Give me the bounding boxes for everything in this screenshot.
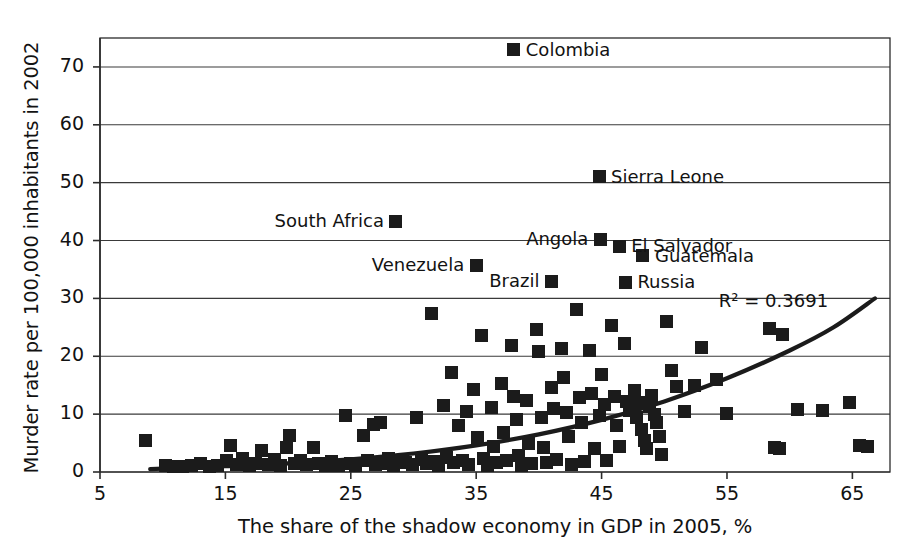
scatter-chart-figure: Murder rate per 100,000 inhabitants in 2… [0,0,920,553]
data-point-marker [545,381,558,394]
data-point-marker [460,405,473,418]
data-point-marker [645,389,658,402]
data-point-marker [255,444,268,457]
y-tick-label-40: 40 [44,228,84,250]
data-point-marker [452,419,465,432]
plot-area [0,0,920,553]
x-tick-label-55: 55 [702,482,752,504]
data-point-marker [532,345,545,358]
data-point-marker [535,411,548,424]
point-label-south-africa: South Africa [275,210,384,231]
data-point-marker [570,303,583,316]
data-point-marker [560,406,573,419]
data-point-marker [520,394,533,407]
data-point-marker [471,431,484,444]
y-tick-label-60: 60 [44,112,84,134]
data-point-marker [583,344,596,357]
data-point-marker [485,401,498,414]
data-point-marker [339,409,352,422]
y-tick-label-50: 50 [44,170,84,192]
data-point-marker [665,364,678,377]
r-squared-annotation: R² = 0.3691 [719,290,828,311]
data-point-marker [575,416,588,429]
data-point-marker [613,440,626,453]
data-point-marker [653,430,666,443]
data-point-marker [557,371,570,384]
data-point-marker [695,341,708,354]
data-point-marker [618,337,631,350]
data-point-marker [608,390,621,403]
data-point-marker-el-salvador [613,240,626,253]
data-point-marker-angola [594,233,607,246]
data-point-marker [573,391,586,404]
data-point-marker [660,315,673,328]
point-label-angola: Angola [526,228,588,249]
data-point-marker [437,399,450,412]
data-point-marker [720,407,733,420]
data-point-marker [224,439,237,452]
data-point-marker [510,413,523,426]
data-point-marker [530,323,543,336]
point-label-brazil: Brazil [489,270,539,291]
data-point-marker [249,457,262,470]
data-point-marker [332,459,345,472]
data-point-marker [425,307,438,320]
data-point-marker [816,404,829,417]
data-point-marker-colombia [507,43,520,56]
data-point-marker [283,429,296,442]
data-point-marker [565,458,578,471]
data-point-marker [588,442,601,455]
point-label-colombia: Colombia [526,39,611,60]
data-point-marker [791,403,804,416]
x-tick-label-25: 25 [326,482,376,504]
data-point-marker [467,383,480,396]
data-point-marker [578,455,591,468]
data-point-marker [605,319,618,332]
data-point-marker [843,396,856,409]
data-point-marker [307,441,320,454]
x-tick-label-65: 65 [827,482,877,504]
data-point-marker [374,416,387,429]
data-point-marker [562,430,575,443]
data-point-marker-south-africa [389,215,402,228]
data-point-marker [640,442,653,455]
y-tick-label-20: 20 [44,343,84,365]
data-point-marker [600,454,613,467]
data-point-marker [522,437,535,450]
y-tick-label-30: 30 [44,285,84,307]
point-label-guatemala: Guatemala [655,245,754,266]
data-point-marker [445,366,458,379]
x-tick-label-35: 35 [451,482,501,504]
data-point-marker [495,377,508,390]
data-point-marker-sierra-leone [593,170,606,183]
data-point-marker [500,454,513,467]
x-tick-label-15: 15 [200,482,250,504]
data-point-marker [585,387,598,400]
data-point-marker [861,440,874,453]
point-label-venezuela: Venezuela [372,254,464,275]
data-point-marker [670,380,683,393]
data-point-marker [688,379,701,392]
data-point-marker [773,442,786,455]
data-point-marker [274,459,287,472]
data-point-marker [610,419,623,432]
data-point-marker [475,329,488,342]
data-point-marker-venezuela [470,259,483,272]
data-point-marker [550,453,563,466]
data-point-marker [280,441,293,454]
data-point-marker [525,457,538,470]
data-point-marker-brazil [545,275,558,288]
data-point-marker [678,405,691,418]
data-point-marker [487,440,500,453]
data-point-marker [555,342,568,355]
y-tick-label-10: 10 [44,401,84,423]
data-point-marker [655,448,668,461]
data-point-marker [507,390,520,403]
data-point-marker [650,416,663,429]
data-point-marker-russia [619,276,632,289]
data-point-marker [410,411,423,424]
y-tick-label-70: 70 [44,54,84,76]
data-point-marker [595,368,608,381]
x-tick-label-45: 45 [577,482,627,504]
data-point-marker [462,458,475,471]
